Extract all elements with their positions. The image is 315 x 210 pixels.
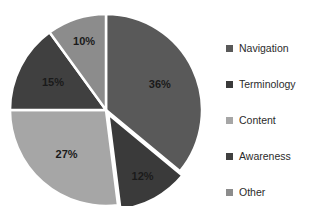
legend-item-awareness[interactable]: Awareness [226,148,312,164]
pie-slice-label-content: 27% [56,148,78,160]
legend-swatch-terminology [226,81,233,88]
legend-item-content[interactable]: Content [226,112,312,128]
legend-label-content: Content [239,114,276,126]
pie-slice-label-awareness: 15% [42,76,64,88]
pie-slice-label-terminology: 12% [132,170,154,182]
pie-chart-svg: 36%12%27%15%10% [8,14,204,206]
pie-slice-label-navigation: 36% [149,78,171,90]
pie-chart-plot-area: 36%12%27%15%10% [8,14,204,206]
chart-legend: Navigation Terminology Content Awareness… [226,40,312,200]
legend-swatch-awareness [226,153,233,160]
pie-slices-group [10,14,202,206]
pie-slice-label-other: 10% [73,35,95,47]
legend-item-navigation[interactable]: Navigation [226,40,312,56]
legend-label-other: Other [239,186,265,198]
legend-item-terminology[interactable]: Terminology [226,76,312,92]
pie-chart-figure: 36%12%27%15%10% Navigation Terminology C… [0,0,315,210]
legend-label-terminology: Terminology [239,78,296,90]
legend-swatch-other [226,189,233,196]
legend-label-navigation: Navigation [239,42,289,54]
legend-label-awareness: Awareness [239,150,291,162]
legend-item-other[interactable]: Other [226,184,312,200]
legend-swatch-content [226,117,233,124]
legend-swatch-navigation [226,45,233,52]
